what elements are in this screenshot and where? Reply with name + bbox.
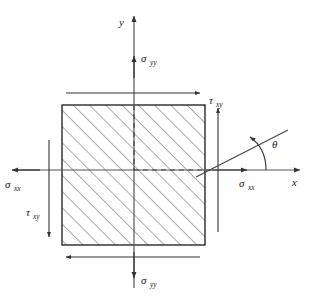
- tau-xy-left-label: τ xy: [26, 206, 40, 221]
- stress-element-diagram: y x σ yy σ yy σ xx σ xx τ xy τ: [0, 0, 315, 296]
- tau-xy-left-subscript: xy: [32, 212, 40, 221]
- sigma-xx-left-symbol: σ: [5, 178, 11, 190]
- sigma-xx-right-subscript: xx: [247, 183, 255, 192]
- tau-xy-right-subscript: xy: [215, 100, 223, 109]
- sigma-xx-left-label: σ xx: [5, 178, 21, 193]
- x-axis-label: x: [291, 176, 297, 188]
- sigma-xx-right-symbol: σ: [239, 177, 245, 189]
- theta-label: θ: [272, 138, 278, 150]
- sigma-xx-right-label: σ xx: [239, 177, 255, 192]
- y-axis-label: y: [118, 16, 124, 28]
- sigma-xx-left-subscript: xx: [13, 184, 21, 193]
- sigma-yy-bottom-subscript: yy: [149, 280, 157, 289]
- tau-xy-right-symbol: τ: [209, 94, 214, 106]
- diagram-svg: y x σ yy σ yy σ xx σ xx τ xy τ: [0, 0, 315, 296]
- sigma-yy-top-subscript: yy: [149, 58, 157, 67]
- sigma-yy-top-symbol: σ: [141, 52, 147, 64]
- tau-xy-left-symbol: τ: [26, 206, 31, 218]
- tau-xy-right-label: τ xy: [209, 94, 223, 109]
- sigma-yy-top-label: σ yy: [141, 52, 157, 67]
- sigma-yy-bottom-label: σ yy: [141, 274, 157, 289]
- sigma-yy-bottom-symbol: σ: [141, 274, 147, 286]
